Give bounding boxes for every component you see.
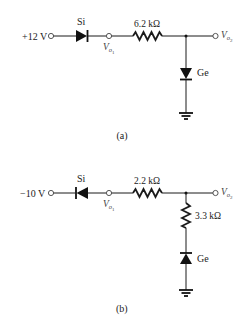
vo1-terminal-b [106,190,111,195]
shunt-resistor-label-b: 3.3 kΩ [195,211,221,221]
shunt-resistor-icon-b [182,203,190,228]
input-terminal-a [48,33,53,38]
vo2-terminal-b [213,190,218,195]
source-voltage-label-b: −10 V [20,188,46,199]
vo1-label-b: Vo1 [103,199,115,212]
circuit-b: −10 V Si Vo1 2.2 kΩ Vo2 3.3 kΩ Ge [20,173,233,315]
ge-diode-icon-b [180,253,192,264]
caption-b: (b) [116,303,128,315]
vo2-label-a: Vo2 [221,30,233,43]
input-terminal-b [48,190,53,195]
si-diode-label-a: Si [77,16,86,27]
vo1-terminal-a [106,33,111,38]
si-diode-label-b: Si [77,173,86,184]
series-resistor-label-b: 2.2 kΩ [134,176,160,186]
source-voltage-label-a: +12 V [22,31,48,42]
vo2-terminal-a [213,33,218,38]
series-resistor-label-a: 6.2 kΩ [134,19,160,29]
circuit-a: +12 V Si Vo1 6.2 kΩ Vo2 Ge [22,16,233,142]
ground-icon-b [179,290,193,296]
ground-icon-a [179,113,193,119]
caption-a: (a) [117,130,128,142]
resistor-icon-b [133,189,162,197]
si-diode-icon-a [76,30,88,42]
ge-diode-label-a: Ge [197,67,209,78]
ge-diode-icon-a [180,68,192,80]
vo2-label-b: Vo2 [221,187,233,200]
resistor-icon-a [133,32,162,40]
si-diode-icon-b [76,187,88,199]
circuit-diagram: +12 V Si Vo1 6.2 kΩ Vo2 Ge [0,0,245,316]
vo1-label-a: Vo1 [103,42,115,55]
ge-diode-label-b: Ge [197,253,209,264]
